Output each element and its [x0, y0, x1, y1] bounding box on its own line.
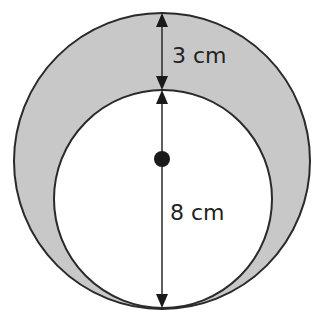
inner-circle	[54, 90, 272, 308]
center-dot	[154, 151, 170, 167]
dimension-label-3cm: 3 cm	[172, 43, 227, 68]
diagram-stage: 3 cm 8 cm	[0, 0, 324, 333]
dimension-label-8cm: 8 cm	[170, 200, 225, 225]
circles-diagram: 3 cm 8 cm	[0, 0, 324, 333]
